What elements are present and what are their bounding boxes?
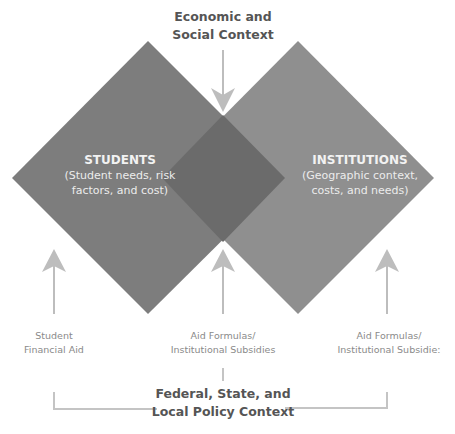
arrow-label-line2: Institutional Subsidie: [329, 343, 449, 357]
institutions-title: INSTITUTIONS [283, 153, 437, 168]
aid-formulas-right-label: Aid Formulas/ Institutional Subsidie: [329, 329, 449, 357]
aid-formulas-center-label: Aid Formulas/ Institutional Subsidies [163, 329, 283, 357]
institutions-sub-line1: (Geographic context, [283, 168, 437, 183]
arrow-label-line2: Financial Aid [4, 343, 104, 357]
arrow-label-line1: Aid Formulas/ [329, 329, 449, 343]
arrow-label-line2: Institutional Subsidies [163, 343, 283, 357]
students-title: STUDENTS [42, 153, 198, 168]
diagram-canvas [0, 0, 455, 434]
arrow-up-icon [211, 249, 235, 314]
context-line2: Social Context [143, 26, 303, 44]
student-financial-aid-label: Student Financial Aid [4, 329, 104, 357]
arrow-up-icon [42, 249, 66, 314]
policy-line1: Federal, State, and [143, 385, 303, 403]
institutions-sub-line2: costs, and needs) [283, 183, 437, 198]
bracket-left [54, 392, 157, 409]
economic-social-context-label: Economic and Social Context [143, 8, 303, 44]
students-label: STUDENTS (Student needs, risk factors, a… [42, 153, 198, 198]
arrow-up-icon [375, 249, 399, 314]
context-line1: Economic and [143, 8, 303, 26]
students-sub-line2: factors, and cost) [42, 183, 198, 198]
arrow-label-line1: Student [4, 329, 104, 343]
institutions-label: INSTITUTIONS (Geographic context, costs,… [283, 153, 437, 198]
students-sub-line1: (Student needs, risk [42, 168, 198, 183]
arrow-down-icon [211, 50, 235, 112]
policy-line2: Local Policy Context [143, 403, 303, 421]
arrow-label-line1: Aid Formulas/ [163, 329, 283, 343]
policy-context-label: Federal, State, and Local Policy Context [143, 385, 303, 421]
